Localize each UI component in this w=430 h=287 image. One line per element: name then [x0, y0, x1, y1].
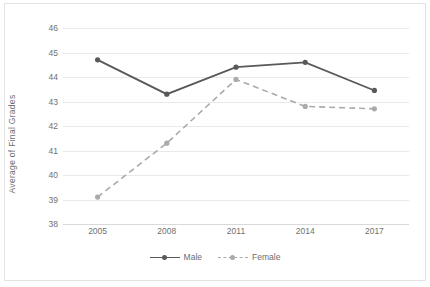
data-point-male	[95, 57, 100, 62]
data-point-male	[164, 92, 169, 97]
y-tick-label: 45	[30, 48, 58, 57]
x-tick-label: 2008	[157, 227, 176, 236]
y-tick-label: 44	[30, 73, 58, 82]
plot-area	[63, 28, 409, 224]
data-point-female	[372, 106, 377, 111]
data-point-male	[303, 60, 308, 65]
data-point-male	[233, 65, 238, 70]
legend-label: Female	[252, 252, 280, 262]
x-tick-label: 2005	[88, 227, 107, 236]
data-point-male	[372, 88, 377, 93]
x-tick-label: 2017	[365, 227, 384, 236]
legend-item-female[interactable]: Female	[218, 252, 280, 262]
data-point-female	[303, 104, 308, 109]
legend-marker-icon	[230, 255, 235, 260]
y-axis-title: Average of Final Grades	[7, 94, 17, 193]
legend-swatch-female-icon	[218, 253, 248, 262]
x-axis-tick-labels: 20052008201120142017	[63, 227, 409, 241]
y-tick-label: 43	[30, 97, 58, 106]
chart-legend: MaleFemale	[0, 252, 430, 262]
series-layer	[63, 28, 409, 224]
gridline-38	[63, 224, 409, 225]
y-tick-label: 38	[30, 220, 58, 229]
data-point-female	[95, 194, 100, 199]
y-tick-label: 39	[30, 195, 58, 204]
y-tick-label: 42	[30, 122, 58, 131]
legend-item-male[interactable]: Male	[150, 252, 202, 262]
x-tick-label: 2014	[296, 227, 315, 236]
x-tick-label: 2011	[227, 227, 245, 236]
data-point-female	[164, 141, 169, 146]
legend-label: Male	[184, 252, 202, 262]
series-line-female	[98, 79, 375, 197]
y-tick-label: 40	[30, 171, 58, 180]
y-tick-label: 41	[30, 146, 58, 155]
line-chart: Average of Final Grades 4645444342414039…	[0, 0, 430, 287]
y-tick-label: 46	[30, 24, 58, 33]
legend-swatch-male-icon	[150, 253, 180, 262]
y-axis-tick-labels: 464544434241403938	[30, 0, 58, 287]
legend-marker-icon	[162, 255, 167, 260]
data-point-female	[233, 77, 238, 82]
